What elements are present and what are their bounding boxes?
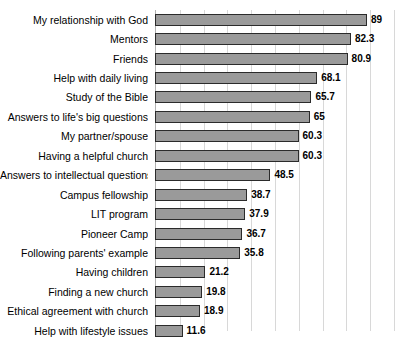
category-label: Having children bbox=[0, 266, 148, 278]
bar-container: 68.1 bbox=[155, 68, 408, 87]
bar-row: Help with daily living68.1 bbox=[0, 68, 408, 87]
bar-row: My partner/spouse60.3 bbox=[0, 127, 408, 146]
bar-value-label: 35.8 bbox=[244, 247, 263, 259]
bar bbox=[155, 247, 240, 259]
bar-value-label: 65.7 bbox=[315, 91, 334, 103]
bar-value-label: 65 bbox=[314, 111, 325, 123]
category-label: Following parents' example bbox=[0, 247, 148, 259]
bar-row: Finding a new church19.8 bbox=[0, 282, 408, 301]
bar-container: 82.3 bbox=[155, 29, 408, 48]
bar-row: Help with lifestyle issues11.6 bbox=[0, 321, 408, 340]
bar-value-label: 11.6 bbox=[187, 325, 206, 337]
bar-container: 65 bbox=[155, 107, 408, 126]
bar bbox=[155, 111, 310, 123]
bar-value-label: 18.9 bbox=[204, 305, 223, 317]
bar bbox=[155, 189, 247, 201]
bar-row: Mentors82.3 bbox=[0, 29, 408, 48]
bar-value-label: 21.2 bbox=[209, 266, 228, 278]
category-label: My relationship with God bbox=[0, 14, 148, 26]
bar bbox=[155, 325, 183, 337]
bar-container: 11.6 bbox=[155, 321, 408, 340]
bar-row: Campus fellowship38.7 bbox=[0, 185, 408, 204]
category-label: My partner/spouse bbox=[0, 130, 148, 142]
bar-value-label: 19.8 bbox=[206, 286, 225, 298]
bar-row: Having children21.2 bbox=[0, 263, 408, 282]
bar bbox=[155, 169, 270, 181]
category-label: Campus fellowship bbox=[0, 189, 148, 201]
category-label: Answers to life's big questions bbox=[0, 111, 148, 123]
category-label: Study of the Bible bbox=[0, 91, 148, 103]
bar bbox=[155, 33, 351, 45]
bar-value-label: 48.5 bbox=[274, 169, 293, 181]
bar-value-label: 37.9 bbox=[249, 208, 268, 220]
bar-row: Answers to intellectual questions48.5 bbox=[0, 166, 408, 185]
bar-value-label: 36.7 bbox=[246, 228, 265, 240]
bar-row: Friends80.9 bbox=[0, 49, 408, 68]
bar-container: 38.7 bbox=[155, 185, 408, 204]
bar-value-label: 82.3 bbox=[355, 33, 374, 45]
bar-value-label: 80.9 bbox=[352, 53, 371, 65]
bar-value-label: 68.1 bbox=[321, 72, 340, 84]
bar-container: 48.5 bbox=[155, 166, 408, 185]
category-label: Ethical agreement with church bbox=[0, 305, 148, 317]
bar bbox=[155, 91, 311, 103]
bar-rows: My relationship with God89Mentors82.3Fri… bbox=[0, 10, 408, 331]
bar-row: Following parents' example35.8 bbox=[0, 243, 408, 262]
bar bbox=[155, 130, 299, 142]
bar bbox=[155, 72, 317, 84]
bar-container: 35.8 bbox=[155, 243, 408, 262]
bar-container: 60.3 bbox=[155, 146, 408, 165]
bar-value-label: 38.7 bbox=[251, 189, 270, 201]
bar-container: 89 bbox=[155, 10, 408, 29]
category-label: Answers to intellectual questions bbox=[0, 169, 148, 181]
bar-row: My relationship with God89 bbox=[0, 10, 408, 29]
bar-container: 80.9 bbox=[155, 49, 408, 68]
bar-row: Study of the Bible65.7 bbox=[0, 88, 408, 107]
category-label: Help with daily living bbox=[0, 72, 148, 84]
bar-container: 18.9 bbox=[155, 302, 408, 321]
bar-container: 37.9 bbox=[155, 204, 408, 223]
bar bbox=[155, 286, 202, 298]
bar-row: Having a helpful church60.3 bbox=[0, 146, 408, 165]
category-label: Mentors bbox=[0, 33, 148, 45]
category-label: Help with lifestyle issues bbox=[0, 325, 148, 337]
bar bbox=[155, 14, 367, 26]
bar bbox=[155, 150, 299, 162]
bar-value-label: 60.3 bbox=[303, 150, 322, 162]
category-label: Pioneer Camp bbox=[0, 228, 148, 240]
bar-row: Ethical agreement with church18.9 bbox=[0, 302, 408, 321]
bar-container: 60.3 bbox=[155, 127, 408, 146]
bar-container: 65.7 bbox=[155, 88, 408, 107]
bar-container: 36.7 bbox=[155, 224, 408, 243]
bar bbox=[155, 266, 205, 278]
bar-row: Pioneer Camp36.7 bbox=[0, 224, 408, 243]
bar-value-label: 60.3 bbox=[303, 130, 322, 142]
category-label: LIT program bbox=[0, 208, 148, 220]
bar-container: 21.2 bbox=[155, 263, 408, 282]
bar-row: Answers to life's big questions65 bbox=[0, 107, 408, 126]
bar bbox=[155, 208, 245, 220]
bar-row: LIT program37.9 bbox=[0, 204, 408, 223]
category-label: Finding a new church bbox=[0, 286, 148, 298]
category-label: Having a helpful church bbox=[0, 150, 148, 162]
bar bbox=[155, 305, 200, 317]
bar-container: 19.8 bbox=[155, 282, 408, 301]
category-label: Friends bbox=[0, 53, 148, 65]
bar bbox=[155, 228, 242, 240]
bar-value-label: 89 bbox=[371, 14, 382, 26]
bar bbox=[155, 53, 348, 65]
